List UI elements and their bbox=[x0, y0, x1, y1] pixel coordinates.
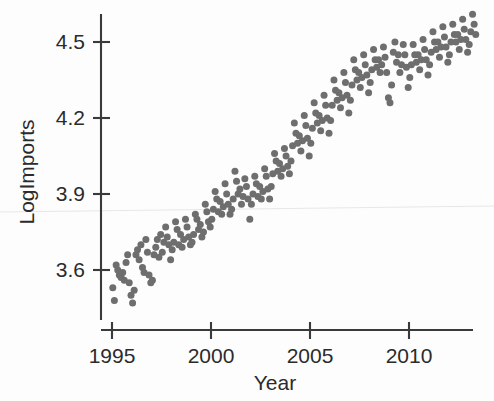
data-point bbox=[111, 297, 118, 304]
data-point bbox=[436, 54, 443, 61]
data-point bbox=[283, 153, 290, 160]
scan-artifact-line bbox=[0, 206, 494, 212]
data-point bbox=[388, 82, 395, 89]
y-tick-label: 4.2 bbox=[56, 106, 85, 129]
data-point bbox=[162, 223, 169, 230]
data-point bbox=[350, 56, 357, 63]
data-point bbox=[200, 229, 207, 236]
x-tick-label: 2005 bbox=[287, 344, 334, 367]
data-point bbox=[347, 97, 354, 104]
data-point bbox=[309, 125, 316, 132]
data-point bbox=[179, 244, 186, 251]
data-point bbox=[266, 196, 273, 203]
data-point bbox=[345, 109, 352, 116]
data-point bbox=[167, 256, 174, 263]
data-point bbox=[246, 216, 253, 223]
data-point bbox=[228, 206, 235, 213]
data-point bbox=[188, 239, 195, 246]
data-point bbox=[439, 23, 446, 30]
data-point bbox=[190, 231, 197, 238]
data-point bbox=[362, 61, 369, 68]
data-point bbox=[383, 69, 390, 76]
data-point bbox=[380, 44, 387, 51]
data-point bbox=[157, 231, 164, 238]
data-point bbox=[472, 31, 479, 38]
data-point bbox=[126, 279, 133, 286]
data-point bbox=[291, 120, 298, 127]
data-point bbox=[444, 59, 451, 66]
x-axis-title: Year bbox=[254, 371, 296, 394]
x-axis-ticks: 1995200020052010 bbox=[89, 322, 433, 367]
data-point bbox=[302, 122, 309, 129]
data-point bbox=[271, 150, 278, 157]
data-point bbox=[317, 127, 324, 134]
data-point bbox=[129, 299, 136, 306]
data-point bbox=[420, 36, 427, 43]
y-tick-label: 3.9 bbox=[56, 182, 85, 205]
data-point bbox=[357, 84, 364, 91]
data-point bbox=[223, 191, 230, 198]
data-point bbox=[248, 201, 255, 208]
x-tick-label: 1995 bbox=[89, 344, 136, 367]
plot-canvas: 3.63.94.24.5 1995200020052010 Year LogIm… bbox=[0, 0, 494, 401]
data-point bbox=[202, 201, 209, 208]
data-point bbox=[405, 84, 412, 91]
data-point bbox=[159, 249, 166, 256]
data-point bbox=[327, 117, 334, 124]
data-point bbox=[330, 77, 337, 84]
data-point bbox=[281, 145, 288, 152]
data-point bbox=[449, 21, 456, 28]
y-tick-label: 3.6 bbox=[56, 258, 85, 281]
data-point bbox=[231, 168, 238, 175]
data-point bbox=[363, 71, 370, 78]
data-point bbox=[152, 244, 159, 251]
data-point bbox=[297, 147, 304, 154]
data-point bbox=[416, 66, 423, 73]
data-point bbox=[261, 165, 268, 172]
data-point bbox=[401, 51, 408, 58]
data-point bbox=[119, 269, 126, 276]
data-point bbox=[218, 211, 225, 218]
data-point bbox=[236, 185, 243, 192]
data-point bbox=[230, 196, 237, 203]
data-point bbox=[268, 183, 275, 190]
data-point bbox=[306, 153, 313, 160]
data-point bbox=[222, 180, 229, 187]
data-point bbox=[370, 46, 377, 53]
data-point bbox=[396, 69, 403, 76]
data-point bbox=[149, 277, 156, 284]
data-point bbox=[459, 16, 466, 23]
data-point bbox=[400, 41, 407, 48]
data-point bbox=[461, 26, 468, 33]
data-point bbox=[164, 234, 171, 241]
data-point bbox=[233, 178, 240, 185]
data-point bbox=[342, 79, 349, 86]
data-point bbox=[441, 33, 448, 40]
x-tick-label: 2000 bbox=[188, 344, 235, 367]
data-point bbox=[425, 71, 432, 78]
data-point bbox=[456, 46, 463, 53]
x-tick-label: 2010 bbox=[386, 344, 433, 367]
data-point bbox=[263, 173, 270, 180]
data-point bbox=[464, 49, 471, 56]
data-point bbox=[278, 173, 285, 180]
data-point bbox=[287, 158, 294, 165]
data-point bbox=[378, 61, 385, 68]
data-point bbox=[136, 256, 143, 263]
data-point bbox=[466, 41, 473, 48]
data-point bbox=[286, 170, 293, 177]
data-point bbox=[443, 44, 450, 51]
data-point bbox=[360, 51, 367, 58]
data-point bbox=[203, 208, 210, 215]
data-point bbox=[386, 99, 393, 106]
data-point bbox=[391, 39, 398, 46]
data-point bbox=[326, 130, 333, 137]
data-point bbox=[410, 41, 417, 48]
data-point bbox=[169, 246, 176, 253]
data-point bbox=[131, 287, 138, 294]
data-point bbox=[429, 28, 436, 35]
data-point bbox=[212, 188, 219, 195]
data-point bbox=[124, 251, 131, 258]
data-point bbox=[395, 51, 402, 58]
data-point bbox=[337, 104, 344, 111]
